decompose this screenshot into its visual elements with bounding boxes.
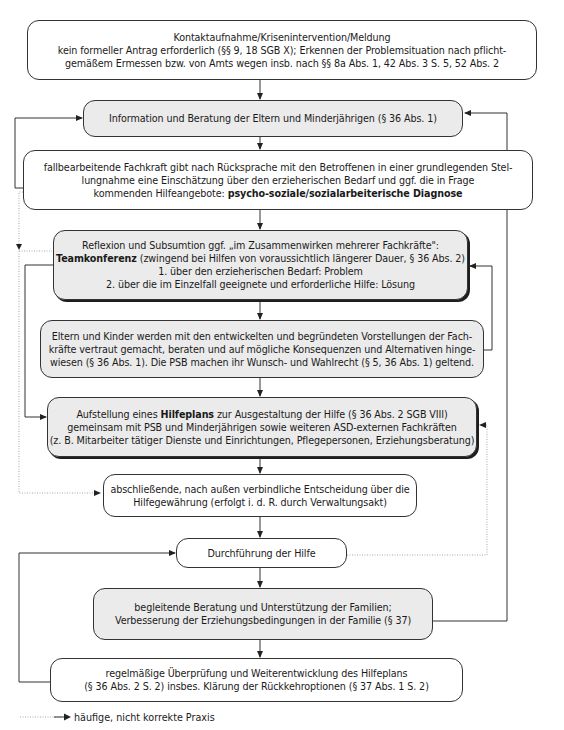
step-text: Aufstellung eines Hilfeplans zur Ausgest…: [76, 408, 447, 421]
step-text-bold: Teamkonferenz: [56, 253, 137, 264]
step-text: gemäßem Ermessen bzw. von Amts wegen ins…: [65, 57, 499, 70]
step-text-rest: (zwingend bei Hilfen von voraussichtlich…: [137, 253, 465, 264]
step-text: kommenden Hilfeangebote: psycho-soziale/…: [94, 187, 463, 200]
step-text: kein formeller Antrag erforderlich (§§ 9…: [58, 44, 506, 57]
step-kontaktaufnahme: Kontaktaufnahme/Krisenintervention/Meldu…: [27, 20, 537, 80]
step-begleitung: begleitende Beratung und Unterstützung d…: [93, 588, 433, 640]
step-text: 2. über die im Einzelfall geeignete und …: [106, 278, 415, 291]
step-text: begleitende Beratung und Unterstützung d…: [134, 601, 391, 614]
step-text: Hilfegewährung (erfolgt i. d. R. durch V…: [133, 496, 387, 509]
step-text-prefix: kommenden Hilfeangebote:: [94, 188, 228, 199]
step-text-prefix: Aufstellung eines: [76, 409, 160, 420]
step-text: Eltern und Kinder werden mit den entwick…: [52, 330, 472, 343]
step-information-beratung: Information und Beratung der Eltern und …: [83, 100, 463, 137]
step-text-bold: Hilfeplans: [161, 409, 214, 420]
step-entscheidung: abschließende, nach außen verbindliche E…: [103, 474, 417, 517]
step-text: fallbearbeitende Fachkraft gibt nach Rüc…: [44, 161, 513, 174]
step-teamkonferenz: Reflexion und Subsumtion ggf. „im Zusamm…: [53, 230, 468, 300]
step-text: abschließende, nach außen verbindliche E…: [110, 483, 409, 496]
step-text: Information und Beratung der Eltern und …: [109, 112, 437, 125]
legend: häufige, nicht korrekte Praxis: [20, 711, 215, 723]
step-text: lungnahme eine Einschätzung über den erz…: [82, 174, 475, 187]
step-ueberpruefung: regelmäßige Überprüfung und Weiterentwic…: [50, 658, 463, 702]
step-text: (§ 36 Abs. 2 S. 2) insbes. Klärung der R…: [84, 680, 429, 693]
step-text: Kontaktaufnahme/Krisenintervention/Meldu…: [173, 31, 390, 44]
step-eltern-kinder: Eltern und Kinder werden mit den entwick…: [40, 320, 484, 378]
step-text: regelmäßige Überprüfung und Weiterentwic…: [106, 667, 408, 680]
step-text: Durchführung der Hilfe: [208, 547, 316, 560]
step-text: Verbesserung der Erziehungsbedingungen i…: [115, 614, 411, 627]
step-text: Reflexion und Subsumtion ggf. „im Zusamm…: [82, 239, 439, 252]
step-text: wiesen (§ 36 Abs. 1). Die PSB machen ihr…: [50, 356, 474, 369]
legend-label: häufige, nicht korrekte Praxis: [74, 712, 215, 723]
step-text: (z. B. Mitarbeiter tätiger Dienste und E…: [50, 434, 475, 447]
step-text-rest: zur Ausgestaltung der Hilfe (§ 36 Abs. 2…: [214, 409, 448, 420]
step-text: Teamkonferenz (zwingend bei Hilfen von v…: [56, 252, 465, 265]
step-text-bold: psycho-soziale/sozialarbeiterische Diagn…: [228, 188, 463, 199]
step-hilfeplan: Aufstellung eines Hilfeplans zur Ausgest…: [47, 397, 477, 457]
step-durchfuehrung: Durchführung der Hilfe: [176, 538, 347, 568]
step-text: kräfte vertraut gemacht, beraten und auf…: [49, 343, 476, 356]
step-text: gemeinsam mit PSB und Minderjährigen sow…: [67, 421, 456, 434]
step-diagnose: fallbearbeitende Fachkraft gibt nach Rüc…: [23, 150, 533, 210]
step-text: 1. über den erzieherischen Bedarf: Probl…: [158, 265, 363, 278]
dotted-arrow-icon: [20, 711, 72, 723]
